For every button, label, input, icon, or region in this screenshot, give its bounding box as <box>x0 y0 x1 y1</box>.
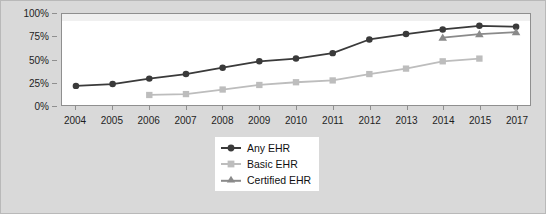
x-axis-tick-label: 2006 <box>138 115 160 126</box>
x-axis-tick <box>480 105 481 110</box>
x-axis-tick <box>517 105 518 110</box>
chart-legend: Any EHR Basic EHR Certified EHR <box>215 137 319 191</box>
data-point <box>476 55 482 61</box>
data-point <box>293 55 300 61</box>
x-axis-tick <box>112 105 113 110</box>
x-axis-tick-label: 2015 <box>469 115 491 126</box>
legend-item-any-ehr[interactable]: Any EHR <box>220 141 311 155</box>
x-axis-tick-label: 2007 <box>174 115 196 126</box>
series-basic-ehr <box>146 55 482 98</box>
data-point <box>476 23 483 29</box>
data-point <box>219 86 225 92</box>
chart-figure: 0%25%50%75%100% 200420052006200720082009… <box>0 0 546 214</box>
data-point <box>146 92 152 98</box>
data-point <box>146 75 153 81</box>
x-axis-tick-label: 2008 <box>211 115 233 126</box>
series-certified-ehr <box>438 28 520 41</box>
x-axis-tick-label: 2013 <box>395 115 417 126</box>
y-axis-tick <box>52 60 57 61</box>
x-axis-tick-label: 2005 <box>101 115 123 126</box>
y-axis-tick-label: 50% <box>29 54 49 65</box>
data-point <box>256 58 263 64</box>
data-point <box>183 71 190 77</box>
y-axis-tick <box>52 83 57 84</box>
data-point <box>403 31 410 37</box>
legend-label-certified-ehr: Certified EHR <box>247 174 311 186</box>
data-point <box>403 65 409 71</box>
y-axis-tick <box>52 106 57 107</box>
x-axis-tick-label: 2014 <box>432 115 454 126</box>
x-axis-tick <box>333 105 334 110</box>
y-axis-tick <box>52 36 57 37</box>
x-axis-tick-label: 2012 <box>359 115 381 126</box>
y-axis-tick-label: 100% <box>23 8 49 19</box>
x-axis: 2004200520062007200820092010201120122013… <box>61 111 531 127</box>
plot-area <box>61 13 531 106</box>
y-axis-tick <box>52 13 57 14</box>
data-point <box>109 81 116 87</box>
legend-marker-triangle-icon <box>220 174 242 186</box>
y-axis-tick-label: 75% <box>29 31 49 42</box>
data-point <box>183 91 189 97</box>
data-point <box>329 50 336 56</box>
legend-label-basic-ehr: Basic EHR <box>247 158 298 170</box>
x-axis-tick-label: 2010 <box>285 115 307 126</box>
x-axis-tick <box>75 105 76 110</box>
x-axis-tick-label: 2017 <box>506 115 528 126</box>
x-axis-tick <box>149 105 150 110</box>
data-point <box>293 79 299 85</box>
y-axis: 0%25%50%75%100% <box>1 13 57 106</box>
data-point <box>329 77 335 83</box>
data-point <box>439 26 446 32</box>
x-axis-tick <box>407 105 408 110</box>
x-axis-tick <box>370 105 371 110</box>
x-axis-tick <box>186 105 187 110</box>
x-axis-tick <box>443 105 444 110</box>
y-axis-tick-label: 25% <box>29 77 49 88</box>
data-point <box>366 36 373 42</box>
data-point <box>366 71 372 77</box>
legend-item-certified-ehr[interactable]: Certified EHR <box>220 173 311 187</box>
series-layer <box>62 14 530 105</box>
x-axis-tick-label: 2009 <box>248 115 270 126</box>
x-axis-tick <box>222 105 223 110</box>
legend-item-basic-ehr[interactable]: Basic EHR <box>220 157 311 171</box>
x-axis-tick-label: 2011 <box>322 115 344 126</box>
data-point <box>256 82 262 88</box>
y-axis-tick-label: 0% <box>35 101 49 112</box>
data-point <box>73 83 80 89</box>
data-point <box>440 58 446 64</box>
legend-label-any-ehr: Any EHR <box>247 142 290 154</box>
x-axis-tick <box>259 105 260 110</box>
legend-marker-square-icon <box>220 158 242 170</box>
x-axis-tick <box>296 105 297 110</box>
legend-marker-circle-icon <box>220 142 242 154</box>
data-point <box>219 64 226 70</box>
x-axis-tick-label: 2004 <box>64 115 86 126</box>
